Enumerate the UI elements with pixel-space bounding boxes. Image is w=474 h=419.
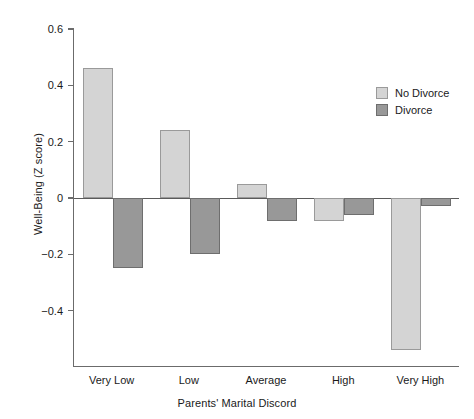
y-axis-tick-mark	[68, 141, 74, 142]
y-axis-tick-label: 0.4	[48, 77, 63, 93]
bar-very-low-divorce	[113, 198, 143, 268]
y-axis-tick-label: 0	[57, 190, 63, 206]
legend-label-divorce: Divorce	[395, 104, 432, 116]
legend-label-no-divorce: No Divorce	[395, 87, 449, 99]
x-axis-tick-label: High	[332, 374, 355, 386]
bar-low-divorce	[190, 198, 220, 254]
bar-average-divorce	[267, 198, 297, 221]
x-axis-tick-label: Very Low	[89, 374, 134, 386]
x-axis-tick-label: Very High	[397, 374, 445, 386]
bar-very-high-no-divorce	[391, 198, 421, 350]
y-axis-tick-mark	[68, 28, 74, 29]
plot-area: 0.60.40.20−0.2−0.4	[73, 29, 459, 367]
legend-item-divorce: Divorce	[376, 101, 449, 118]
y-axis-tick-label: 0.6	[48, 21, 63, 37]
y-axis-tick-mark	[68, 310, 74, 311]
y-axis-tick-label: 0.2	[48, 134, 63, 150]
chart-figure: Well-Being (Z score) 0.60.40.20−0.2−0.4 …	[0, 0, 474, 419]
chart-legend: No Divorce Divorce	[376, 84, 449, 118]
bar-high-divorce	[344, 198, 374, 215]
y-axis-tick-label: −0.2	[41, 246, 63, 262]
bar-average-no-divorce	[237, 184, 267, 198]
bar-high-no-divorce	[314, 198, 344, 221]
bar-low-no-divorce	[160, 130, 190, 198]
bar-very-low-no-divorce	[83, 68, 113, 198]
y-axis-tick-mark	[68, 85, 74, 86]
x-axis-tick-label: Average	[246, 374, 287, 386]
y-axis-tick-label: −0.4	[41, 303, 63, 319]
bar-very-high-divorce	[421, 198, 451, 206]
legend-swatch-no-divorce	[376, 87, 388, 99]
x-axis-tick-label: Low	[179, 374, 199, 386]
legend-item-no-divorce: No Divorce	[376, 84, 449, 101]
x-axis-title: Parents' Marital Discord	[0, 397, 474, 409]
legend-swatch-divorce	[376, 104, 388, 116]
y-axis-tick-mark	[68, 254, 74, 255]
